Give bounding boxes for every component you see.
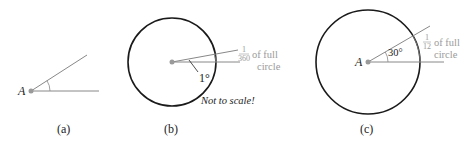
angle-label-b: 1° <box>199 71 210 85</box>
angle-diagram: A (a) 1° 1 360 of full circle Not to sca… <box>0 0 468 142</box>
center-point-b <box>170 60 175 65</box>
fraction-text-2-b: circle <box>257 61 281 72</box>
fraction-num-c: 1 <box>425 33 429 42</box>
caption-a: (a) <box>57 122 70 136</box>
vertex-label-a: A <box>17 84 26 98</box>
angle-arc-a <box>47 81 50 91</box>
vertex-label-c: A <box>354 55 363 69</box>
panel-b: 1° 1 360 of full circle Not to scale! (b… <box>128 18 281 136</box>
caption-b: (b) <box>164 122 178 136</box>
not-to-scale-note: Not to scale! <box>200 95 255 106</box>
fraction-num-b: 1 <box>242 45 246 54</box>
ray-slanted-a <box>31 55 87 91</box>
fraction-text-2-c: circle <box>434 49 458 60</box>
angle-label-c: 30° <box>388 47 403 58</box>
panel-a: A (a) <box>17 55 99 136</box>
fraction-text-1-c: of full <box>434 37 460 48</box>
fraction-text-1-b: of full <box>252 49 278 60</box>
caption-c: (c) <box>360 122 373 136</box>
fraction-den-b: 360 <box>238 54 250 63</box>
center-point-c <box>366 60 371 65</box>
ray-slanted-b <box>172 50 238 62</box>
panel-c: A 30° 1 12 of full circle (c) <box>316 10 460 136</box>
vertex-point-a <box>29 89 34 94</box>
fraction-den-c: 12 <box>423 42 431 51</box>
